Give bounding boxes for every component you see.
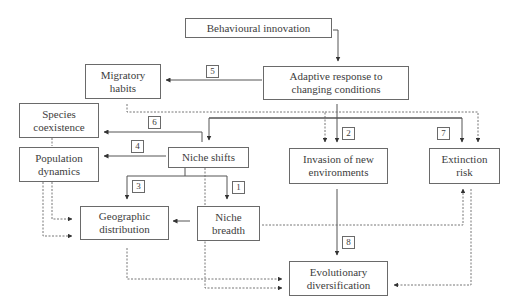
node-label: Invasion of new environments — [300, 153, 377, 179]
edge-nicheshifts-breadth — [185, 176, 227, 199]
node-label: Behavioural innovation — [207, 22, 311, 35]
edge-extinction-evolutionary — [394, 189, 471, 285]
node-adaptive-response: Adaptive response to changing conditions — [263, 66, 409, 100]
node-label: Niche shifts — [182, 151, 235, 164]
edge-population-geo-2 — [43, 182, 72, 236]
edge-label-2: 2 — [342, 127, 355, 140]
node-species-coexistence: Species coexistence — [19, 103, 99, 138]
node-label: Evolutionary diversification — [300, 266, 377, 292]
edge-nicheshifts-coexistence — [104, 132, 202, 142]
edge-geo-evolutionary — [127, 248, 282, 279]
edge-label-7: 7 — [437, 127, 450, 140]
node-extinction-risk: Extinction risk — [429, 148, 500, 184]
node-label: Migratory habits — [98, 69, 148, 95]
node-label: Species coexistence — [26, 108, 92, 134]
node-niche-shifts: Niche shifts — [168, 147, 249, 168]
node-migratory-habits: Migratory habits — [85, 64, 161, 99]
edge-label-3: 3 — [132, 180, 145, 193]
edge-label-5: 5 — [206, 65, 219, 78]
edge-adaptive-extinction — [209, 118, 462, 142]
edge-label-4: 4 — [131, 140, 144, 153]
node-behavioural-innovation: Behavioural innovation — [185, 18, 332, 38]
edge-breadth-extinction — [262, 189, 463, 225]
node-label: Adaptive response to changing conditions — [282, 70, 390, 96]
node-invasion-new-environments: Invasion of new environments — [289, 148, 388, 184]
edge-adaptive-nicheshifts — [209, 118, 462, 140]
node-label: Population dynamics — [26, 152, 92, 178]
node-population-dynamics: Population dynamics — [19, 147, 99, 182]
edge-label-1: 1 — [232, 181, 245, 194]
edge-label-6: 6 — [148, 116, 161, 129]
node-label: Geographic distribution — [87, 210, 162, 236]
edge-innovation-adaptive — [333, 30, 338, 61]
edge-population-geo-1 — [52, 182, 72, 219]
edge-label-8: 8 — [342, 236, 355, 249]
node-label: Extinction risk — [438, 153, 491, 179]
node-geographic-distribution: Geographic distribution — [80, 206, 169, 240]
node-evolutionary-diversification: Evolutionary diversification — [289, 261, 388, 296]
node-label: Niche breadth — [208, 211, 249, 237]
node-niche-breadth: Niche breadth — [197, 206, 260, 241]
